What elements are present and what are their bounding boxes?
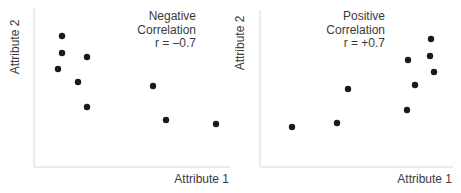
data-point bbox=[405, 57, 411, 63]
data-point bbox=[428, 36, 434, 42]
data-point bbox=[59, 50, 65, 56]
positive-correlation-plot: Attribute 2 Attribute 1 Positive Correla… bbox=[233, 9, 453, 186]
data-point bbox=[334, 120, 340, 126]
annotation-line-2: Correlation bbox=[137, 23, 196, 37]
annotation-line-1: Negative bbox=[149, 9, 197, 23]
data-point bbox=[84, 104, 90, 110]
data-point bbox=[345, 86, 351, 92]
x-axis-label: Attribute 1 bbox=[397, 172, 452, 186]
annotation-line-3: r = +0.7 bbox=[344, 36, 386, 50]
data-point bbox=[289, 124, 295, 130]
annotation-line-3: r = –0.7 bbox=[155, 36, 196, 50]
data-point bbox=[55, 66, 61, 72]
correlation-figure: Attribute 2 Attribute 1 Negative Correla… bbox=[0, 0, 461, 193]
y-axis-label: Attribute 2 bbox=[8, 19, 22, 74]
data-point bbox=[84, 54, 90, 60]
data-point bbox=[213, 121, 219, 127]
data-point bbox=[404, 107, 410, 113]
x-axis-label: Attribute 1 bbox=[174, 172, 229, 186]
data-point bbox=[163, 117, 169, 123]
y-axis-label: Attribute 2 bbox=[233, 15, 247, 70]
data-point bbox=[431, 69, 437, 75]
data-point bbox=[59, 33, 65, 39]
data-point bbox=[150, 83, 156, 89]
data-point bbox=[75, 79, 81, 85]
annotation-line-1: Positive bbox=[343, 9, 385, 23]
negative-correlation-plot: Attribute 2 Attribute 1 Negative Correla… bbox=[8, 8, 230, 186]
data-point bbox=[427, 53, 433, 59]
data-point bbox=[412, 82, 418, 88]
annotation-line-2: Correlation bbox=[326, 23, 385, 37]
